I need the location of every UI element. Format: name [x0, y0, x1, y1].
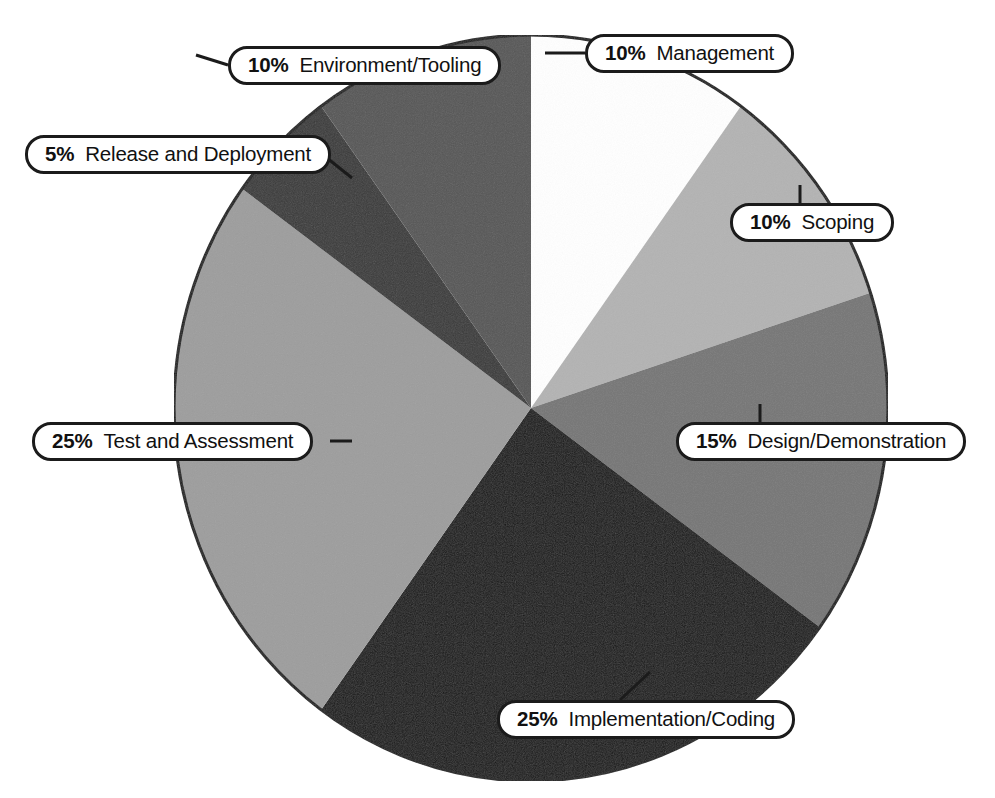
callout-release-and-deployment[interactable]: 5% Release and Deployment	[25, 135, 331, 174]
callout-percent: 25%	[517, 707, 557, 731]
callout-percent: 10%	[750, 210, 790, 234]
callout-management[interactable]: 10% Management	[585, 34, 794, 73]
callout-label: Implementation/Coding	[568, 707, 775, 731]
callout-percent: 15%	[696, 429, 736, 453]
callout-environment-tooling[interactable]: 10% Environment/Tooling	[228, 46, 501, 85]
callout-scoping[interactable]: 10% Scoping	[730, 203, 894, 242]
callout-label: Management	[656, 41, 774, 65]
callout-percent: 10%	[605, 41, 645, 65]
callout-label: Environment/Tooling	[299, 53, 481, 77]
pie-chart-figure: 10% Management 10% Scoping 15% Design/De…	[0, 0, 995, 798]
callout-label: Scoping	[801, 210, 874, 234]
callout-implementation-coding[interactable]: 25% Implementation/Coding	[497, 700, 795, 739]
callout-label: Test and Assessment	[103, 429, 293, 453]
callout-test-and-assessment[interactable]: 25% Test and Assessment	[32, 422, 313, 461]
callout-percent: 5%	[45, 142, 74, 166]
callout-design-demonstration[interactable]: 15% Design/Demonstration	[676, 422, 966, 461]
callout-label: Release and Deployment	[85, 142, 311, 166]
leader-line-environment	[196, 55, 228, 65]
pie-chart-svg	[0, 0, 995, 798]
callout-percent: 25%	[52, 429, 92, 453]
callout-label: Design/Demonstration	[747, 429, 946, 453]
callout-percent: 10%	[248, 53, 288, 77]
